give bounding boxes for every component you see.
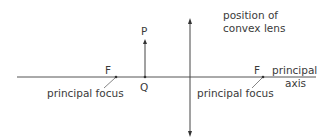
point-q-dot bbox=[144, 76, 147, 79]
focus-left-label: F bbox=[105, 64, 111, 76]
principal-focus-right-label: principal focus bbox=[197, 87, 274, 99]
lens-arrow-bottom-icon bbox=[188, 131, 192, 137]
lens-label-line1: position of bbox=[223, 9, 278, 21]
principal-axis-label-line2: axis bbox=[285, 77, 306, 89]
object-arrow-icon bbox=[143, 39, 147, 44]
point-q-label: Q bbox=[140, 81, 148, 93]
focus-right-dot bbox=[262, 76, 265, 79]
principal-axis-label-line1: principal bbox=[272, 64, 317, 76]
focus-left-dot bbox=[115, 76, 118, 79]
point-p-label: P bbox=[141, 25, 147, 37]
lens-arrow-top-icon bbox=[188, 18, 192, 24]
focus-right-label: F bbox=[254, 64, 260, 76]
principal-focus-left-label: principal focus bbox=[47, 87, 124, 99]
lens-label-line2: convex lens bbox=[223, 22, 285, 34]
